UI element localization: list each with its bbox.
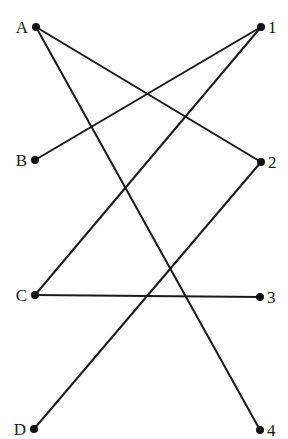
node-label: 4 (267, 421, 276, 439)
node-B: B (16, 151, 39, 170)
node-dot (32, 23, 40, 31)
node-D: D (14, 420, 38, 439)
node-label: 3 (267, 288, 276, 307)
node-label: B (16, 151, 27, 170)
node-3: 3 (256, 288, 276, 307)
node-dot (30, 425, 38, 433)
bipartite-diagram: 1234ABCD (0, 0, 288, 439)
node-label: 1 (268, 18, 277, 37)
node-4: 4 (256, 421, 276, 439)
node-label: D (14, 420, 26, 439)
node-label: C (16, 286, 27, 305)
edges (34, 27, 261, 430)
node-dot (257, 158, 265, 166)
node-dot (256, 293, 264, 301)
node-label: A (16, 18, 29, 37)
node-dot (31, 291, 39, 299)
node-label: 2 (268, 153, 277, 172)
node-C: C (16, 286, 39, 305)
edge-C-1 (35, 27, 261, 295)
node-1: 1 (257, 18, 277, 37)
node-2: 2 (257, 153, 277, 172)
edge-A-4 (36, 27, 260, 430)
node-dot (31, 156, 39, 164)
node-dot (257, 23, 265, 31)
nodes: 1234ABCD (14, 18, 277, 439)
node-A: A (16, 18, 40, 37)
node-dot (256, 426, 264, 434)
